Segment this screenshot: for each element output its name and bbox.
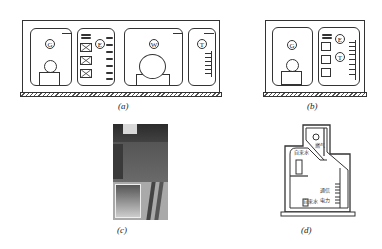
symbol-e: E bbox=[335, 34, 345, 44]
rack-arm bbox=[349, 46, 355, 47]
ground-strip-a bbox=[20, 92, 222, 97]
photo-sky bbox=[123, 124, 137, 134]
rack-arm bbox=[349, 64, 355, 65]
symbol-e: E bbox=[95, 39, 105, 49]
rack-arm bbox=[205, 69, 211, 70]
caption-d: (d) bbox=[301, 225, 312, 235]
water-pipe bbox=[139, 54, 166, 79]
symbol-t: T bbox=[335, 52, 345, 62]
gas-compartment-a: G bbox=[30, 28, 72, 86]
symbol-g: G bbox=[287, 40, 297, 50]
hook bbox=[62, 33, 72, 34]
cable-box-icon bbox=[321, 55, 331, 64]
cable-rack bbox=[106, 58, 113, 60]
rack-arm bbox=[205, 65, 211, 66]
cable-box-icon bbox=[321, 42, 331, 51]
rack-arm bbox=[349, 59, 355, 60]
pipe-support bbox=[281, 71, 302, 85]
cable-tray bbox=[81, 37, 91, 39]
photo-trench-box bbox=[115, 184, 141, 218]
cable-rack bbox=[106, 72, 113, 74]
ground-strip-b bbox=[263, 92, 367, 97]
symbol-t: T bbox=[197, 39, 207, 49]
photo-trees bbox=[113, 124, 168, 144]
label-power: 电力 bbox=[320, 196, 330, 203]
cable-box-icon bbox=[321, 68, 331, 77]
symbol-w: W bbox=[149, 39, 159, 49]
cable-rack bbox=[106, 37, 113, 39]
hook bbox=[173, 33, 183, 34]
pipe-support bbox=[39, 72, 60, 86]
label-telecom: 通信 bbox=[320, 186, 330, 193]
symbol-g: G bbox=[45, 39, 55, 49]
rack-arm bbox=[349, 74, 355, 75]
cable-box-icon bbox=[80, 56, 92, 65]
telecom-rack bbox=[211, 51, 212, 77]
cable-rack bbox=[106, 65, 113, 67]
photo-road-edge bbox=[113, 144, 123, 179]
cable-rack bbox=[106, 78, 113, 80]
cable-tray bbox=[81, 34, 91, 36]
caption-c: (c) bbox=[117, 225, 127, 235]
label-tap-water-upper: 自来水 bbox=[294, 148, 309, 155]
label-gas: 燃气 bbox=[315, 141, 325, 148]
rack-arm bbox=[205, 57, 211, 58]
hook bbox=[204, 33, 214, 34]
rack-arm bbox=[349, 42, 355, 43]
power-compartment-a: E bbox=[77, 28, 115, 86]
special-section-outline bbox=[280, 120, 360, 220]
cable-rack bbox=[106, 51, 113, 53]
cable-box-icon bbox=[80, 43, 92, 52]
rack-arm bbox=[349, 69, 355, 70]
cable-tray bbox=[322, 37, 332, 39]
rack-arm bbox=[205, 73, 211, 74]
telecom-rack bbox=[355, 40, 356, 80]
telecom-compartment-a: T bbox=[188, 28, 216, 86]
gas-compartment-b: G bbox=[272, 27, 313, 86]
label-tap-water-lower: 自来水 bbox=[303, 197, 318, 204]
street-trench-photo bbox=[113, 124, 168, 220]
cable-box-icon bbox=[80, 69, 92, 78]
cable-rack bbox=[106, 44, 113, 46]
rack-arm bbox=[205, 53, 211, 54]
rack-arm bbox=[349, 50, 355, 51]
caption-a: (a) bbox=[118, 101, 129, 111]
water-compartment-a: W bbox=[124, 28, 183, 86]
rack-arm bbox=[349, 54, 355, 55]
power-telecom-compartment-b: E T bbox=[318, 27, 360, 86]
caption-b: (b) bbox=[307, 101, 318, 111]
rack-arm bbox=[205, 61, 211, 62]
cable-tray bbox=[322, 34, 332, 36]
